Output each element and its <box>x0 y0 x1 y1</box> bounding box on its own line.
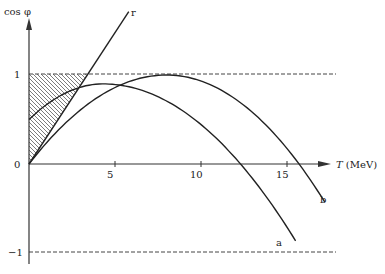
curve-r-label: r <box>131 7 136 18</box>
curve-a-label: a <box>276 237 282 248</box>
hatch-line <box>113 74 203 164</box>
hatch-line <box>9 74 99 164</box>
x-axis-label-unit: (MeV) <box>346 159 377 170</box>
hatch-line <box>93 74 183 164</box>
x-tick-label-5: 5 <box>107 169 113 180</box>
y-tick-label-1: 1 <box>14 69 20 80</box>
hatch-line <box>49 74 139 164</box>
hatch-line <box>81 74 171 164</box>
hatch-line <box>77 74 167 164</box>
hatch-line <box>97 74 187 164</box>
hatch-line <box>73 74 163 164</box>
hatch-line <box>0 74 31 164</box>
y-tick-label-minus-1: −1 <box>8 247 23 258</box>
hatch-line <box>0 74 71 164</box>
x-axis-label: T (MeV) <box>336 159 377 170</box>
hatch-line <box>0 74 43 164</box>
hatch-line <box>0 74 87 164</box>
hatch-line <box>29 74 119 164</box>
hatch-line <box>145 74 235 164</box>
hatch-line <box>133 74 223 164</box>
y-tick-label-0: 0 <box>14 159 20 170</box>
curve-a <box>29 84 296 241</box>
hatch-line <box>0 74 23 164</box>
curve-b-label: b <box>320 194 326 205</box>
hatch-line <box>21 74 111 164</box>
hatch-line <box>105 74 195 164</box>
y-axis-label: cos φ <box>4 6 31 17</box>
hatch-line <box>0 74 27 164</box>
hatch-line <box>0 74 51 164</box>
x-axis-label-var: T <box>336 159 344 170</box>
hatch-line <box>0 74 19 164</box>
y-axis-arrow-icon <box>26 18 32 30</box>
hatch-line <box>137 74 227 164</box>
hatch-line <box>41 74 131 164</box>
diagram-canvas: cos φ T (MeV) 1 0 −1 5 10 15 r a b <box>0 0 385 274</box>
hatch-line <box>129 74 219 164</box>
x-axis-arrow-icon <box>318 161 331 167</box>
x-tick-label-15: 15 <box>276 169 289 180</box>
hatch-line <box>109 74 199 164</box>
hatch-line <box>61 74 151 164</box>
hatch-line <box>125 74 215 164</box>
x-tick-label-10: 10 <box>190 169 203 180</box>
hatched-region <box>0 74 235 164</box>
